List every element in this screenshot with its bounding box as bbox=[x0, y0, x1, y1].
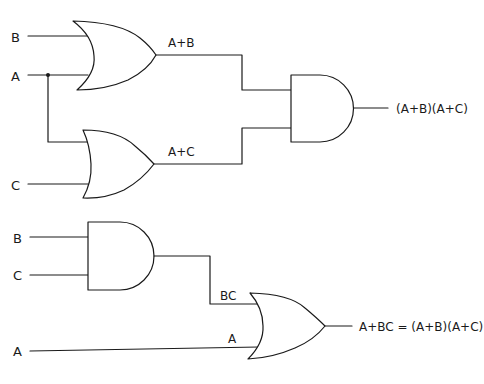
label-and-output: (A+B)(A+C) bbox=[396, 102, 468, 116]
label-a-into-or: A bbox=[228, 332, 237, 346]
and-gate-2 bbox=[88, 222, 154, 290]
input-label-c-top: C bbox=[11, 178, 20, 193]
top-circuit: B A C A+B A+C (A+B)(A+C) bbox=[11, 21, 468, 198]
input-label-b-bottom: B bbox=[13, 231, 22, 246]
and-gate-1 bbox=[291, 75, 353, 142]
input-label-a-top: A bbox=[11, 69, 20, 84]
junction-dot bbox=[46, 73, 50, 77]
label-bc: BC bbox=[220, 289, 236, 303]
or-gate-1 bbox=[73, 21, 156, 90]
or-gate-2 bbox=[83, 130, 154, 198]
wire-a-plus-b bbox=[156, 55, 291, 90]
wire-bc bbox=[154, 256, 257, 304]
wire-a-input-bottom bbox=[30, 347, 259, 351]
label-a-plus-b: A+B bbox=[168, 36, 195, 50]
bottom-circuit: B C A BC A A+BC = (A+B)(A+C) bbox=[13, 222, 483, 359]
label-a-plus-c: A+C bbox=[168, 145, 195, 159]
input-label-c-bottom: C bbox=[13, 268, 22, 283]
logic-diagram: B A C A+B A+C (A+B)(A+C) B C A bbox=[0, 0, 484, 384]
input-label-b-top: B bbox=[11, 30, 20, 45]
input-label-a-bottom: A bbox=[13, 344, 22, 359]
or-gate-3 bbox=[248, 293, 325, 359]
label-final-output: A+BC = (A+B)(A+C) bbox=[359, 320, 483, 334]
